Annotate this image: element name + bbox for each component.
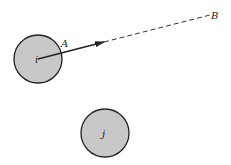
sphere-j: j [81,109,129,157]
diagram-canvas: i A B j [0,0,231,165]
dashed-line-to-b [104,15,210,42]
label-i: i [35,54,38,65]
label-a: A [60,38,68,49]
label-b: B [210,10,218,21]
